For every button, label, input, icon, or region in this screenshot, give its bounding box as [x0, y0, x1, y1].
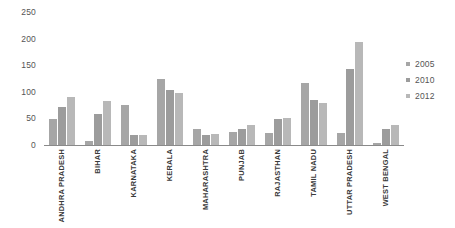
legend-swatch-icon — [406, 78, 410, 82]
bar[interactable] — [301, 83, 309, 145]
bar[interactable] — [166, 90, 174, 145]
bar[interactable] — [121, 105, 129, 145]
x-axis-label: UTTAR PRADESH — [346, 149, 354, 215]
legend-swatch-icon — [406, 62, 410, 66]
x-axis-label: PUNJAB — [238, 149, 246, 181]
y-axis: 250200150100500 — [0, 0, 44, 228]
bar[interactable] — [382, 129, 390, 145]
x-axis-label: KARNATAKA — [130, 149, 138, 197]
bar-groups — [44, 12, 404, 145]
x-axis-label-cell: WEST BENGAL — [368, 147, 404, 228]
x-axis-label-cell: MAHARASHTRA — [188, 147, 224, 228]
bar[interactable] — [139, 135, 147, 145]
bar[interactable] — [355, 42, 363, 145]
legend-item[interactable]: 2010 — [406, 72, 455, 88]
bar[interactable] — [157, 79, 165, 145]
bar-group — [332, 12, 368, 145]
x-axis-label: KERALA — [166, 149, 174, 181]
bar[interactable] — [247, 125, 255, 145]
bar[interactable] — [391, 125, 399, 145]
x-axis-label: BIHAR — [94, 149, 102, 174]
bar[interactable] — [310, 100, 318, 145]
bar-group — [224, 12, 260, 145]
x-axis-label-cell: TAMIL NADU — [296, 147, 332, 228]
bar[interactable] — [265, 133, 273, 145]
bar[interactable] — [175, 93, 183, 145]
x-axis-label: TAMIL NADU — [310, 149, 318, 197]
bar[interactable] — [193, 129, 201, 145]
x-axis-label-cell: KARNATAKA — [116, 147, 152, 228]
legend-swatch-icon — [406, 94, 410, 98]
bar[interactable] — [274, 119, 282, 145]
bar[interactable] — [67, 97, 75, 145]
bar[interactable] — [49, 119, 57, 145]
legend-label: 2005 — [415, 59, 435, 69]
bar[interactable] — [319, 103, 327, 145]
plot-area — [44, 12, 404, 146]
bar[interactable] — [211, 134, 219, 145]
x-axis-label-cell: KERALA — [152, 147, 188, 228]
x-axis-label: MAHARASHTRA — [202, 149, 210, 210]
y-axis-tick: 50 — [26, 113, 36, 123]
bar-group — [80, 12, 116, 145]
legend-item[interactable]: 2012 — [406, 88, 455, 104]
legend-label: 2012 — [415, 91, 435, 101]
bar[interactable] — [130, 135, 138, 145]
legend-item[interactable]: 2005 — [406, 56, 455, 72]
x-axis-label: RAJASTHAN — [274, 149, 282, 197]
bar-group — [296, 12, 332, 145]
x-axis-label-cell: BIHAR — [80, 147, 116, 228]
y-axis-tick: 150 — [21, 60, 36, 70]
bar[interactable] — [337, 133, 345, 145]
legend-label: 2010 — [415, 75, 435, 85]
x-axis-labels: ANDHRA PRADESHBIHARKARNATAKAKERALAMAHARA… — [44, 147, 404, 228]
bar-group — [188, 12, 224, 145]
y-axis-tick: 200 — [21, 34, 36, 44]
x-axis-label: ANDHRA PRADESH — [58, 149, 66, 222]
bar[interactable] — [103, 101, 111, 145]
bar[interactable] — [94, 114, 102, 145]
x-axis-baseline — [44, 145, 404, 146]
bar[interactable] — [229, 132, 237, 145]
bar-group — [152, 12, 188, 145]
x-axis-label-cell: ANDHRA PRADESH — [44, 147, 80, 228]
bar-group — [260, 12, 296, 145]
bar-chart: 250200150100500 ANDHRA PRADESHBIHARKARNA… — [0, 0, 455, 228]
y-axis-tick: 250 — [21, 7, 36, 17]
bar[interactable] — [202, 135, 210, 145]
bar[interactable] — [346, 69, 354, 145]
x-axis-label-cell: PUNJAB — [224, 147, 260, 228]
bar[interactable] — [238, 129, 246, 145]
bar-group — [368, 12, 404, 145]
bar-group — [44, 12, 80, 145]
bar-group — [116, 12, 152, 145]
x-axis-label: WEST BENGAL — [382, 149, 390, 206]
x-axis-label-cell: UTTAR PRADESH — [332, 147, 368, 228]
bar[interactable] — [283, 118, 291, 145]
y-axis-tick: 100 — [21, 87, 36, 97]
chart-legend: 200520102012 — [406, 56, 455, 104]
y-axis-tick: 0 — [31, 140, 36, 150]
bar[interactable] — [58, 107, 66, 145]
x-axis-label-cell: RAJASTHAN — [260, 147, 296, 228]
